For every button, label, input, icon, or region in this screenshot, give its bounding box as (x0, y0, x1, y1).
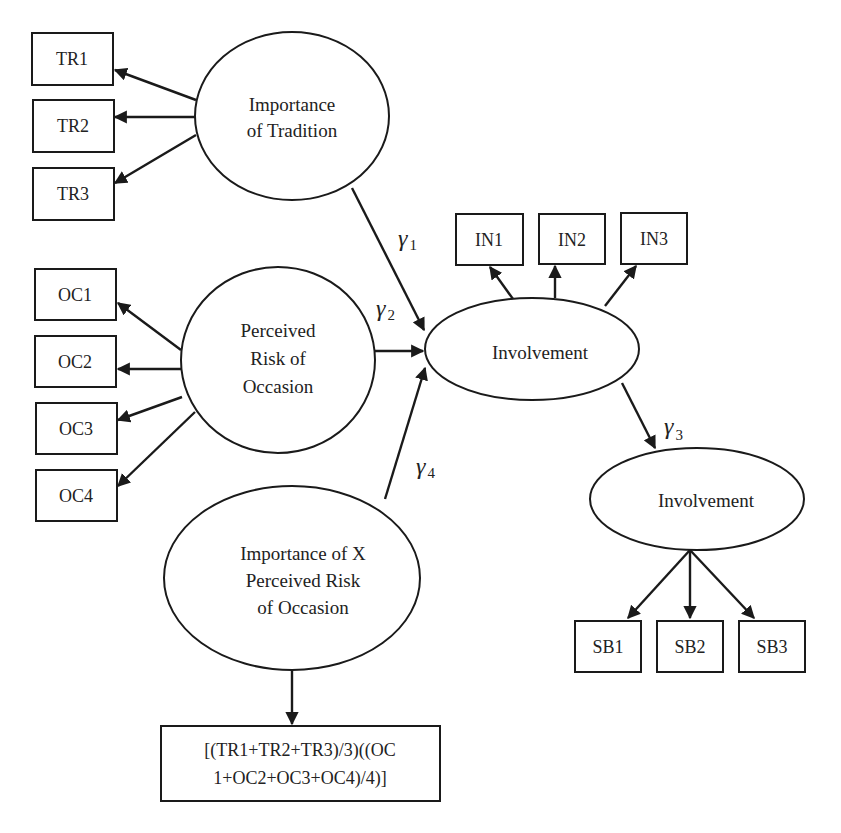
indicator-label: SB3 (756, 637, 787, 657)
gamma2-label: γ2 (376, 295, 395, 323)
indicator-label: OC2 (58, 352, 92, 372)
arrow-risk-oc4 (118, 412, 195, 486)
formula-line-1: [(TR1+TR2+TR3)/3)((OC (204, 740, 395, 761)
indicator-in3: IN3 (621, 213, 687, 264)
indicator-tr2: TR2 (33, 100, 114, 152)
arrow-outcome-sb1 (628, 550, 690, 618)
latent-perceived-risk: Perceived Risk of Occasion (181, 267, 375, 453)
gamma1-label: γ1 (398, 225, 417, 253)
arrow-risk-oc1 (118, 303, 181, 350)
sem-diagram: TR1 TR2 TR3 OC1 OC2 OC3 OC4 IN1 IN2 IN3 … (0, 0, 841, 833)
latent-label: Involvement (492, 342, 589, 363)
arrow-tradition-tr1 (115, 70, 196, 100)
indicator-label: OC4 (59, 486, 93, 506)
latent-label: Occasion (243, 376, 314, 397)
indicator-sb2: SB2 (657, 621, 723, 672)
indicator-in1: IN1 (456, 214, 523, 265)
formula-line-2: 1+OC2+OC3+OC4)/4)] (213, 768, 386, 789)
indicator-label: IN2 (558, 230, 586, 250)
latent-involvement: Involvement (425, 298, 639, 400)
latent-label: Importance of X (240, 543, 366, 564)
arrow-tradition-tr3 (115, 135, 196, 183)
indicator-label: OC3 (59, 419, 93, 439)
latent-label: of Tradition (247, 120, 338, 141)
arrow-outcome-sb3 (690, 550, 754, 618)
indicator-label: TR3 (57, 184, 89, 204)
interaction-formula-box: [(TR1+TR2+TR3)/3)((OC 1+OC2+OC3+OC4)/4)] (161, 726, 440, 801)
arrow-involvement-in1 (490, 267, 513, 299)
latent-label: Risk of (250, 348, 306, 369)
indicator-tr1: TR1 (32, 33, 113, 85)
latent-involvement-outcome: Involvement (590, 448, 804, 550)
arrow-risk-oc3 (118, 397, 182, 420)
indicator-oc4: OC4 (36, 470, 117, 521)
indicator-sb1: SB1 (575, 621, 641, 672)
indicator-tr3: TR3 (33, 168, 114, 220)
arrow-gamma4 (385, 368, 425, 499)
indicator-label: TR1 (56, 49, 88, 69)
indicator-label: SB2 (674, 637, 705, 657)
indicator-label: TR2 (57, 116, 89, 136)
latent-importance-of-tradition: Importance of Tradition (195, 32, 389, 200)
gamma3-label: γ3 (664, 413, 683, 443)
arrow-involvement-in3 (605, 266, 636, 306)
indicator-sb3: SB3 (739, 621, 805, 672)
latent-label: of Occasion (257, 597, 349, 618)
indicator-oc1: OC1 (35, 269, 116, 320)
gamma4-label: γ4 (416, 453, 435, 481)
indicator-label: IN3 (640, 229, 668, 249)
latent-interaction: Importance of X Perceived Risk of Occasi… (164, 486, 420, 670)
latent-label: Importance (249, 94, 336, 115)
indicator-oc2: OC2 (35, 336, 116, 387)
latent-label: Perceived Risk (246, 570, 361, 591)
indicator-label: IN1 (475, 230, 503, 250)
arrow-gamma3 (622, 383, 655, 448)
latent-label: Perceived (241, 320, 316, 341)
indicator-label: SB1 (592, 637, 623, 657)
indicator-in2: IN2 (539, 214, 605, 264)
latent-label: Involvement (658, 490, 755, 511)
indicator-oc3: OC3 (36, 403, 117, 454)
indicator-label: OC1 (58, 285, 92, 305)
